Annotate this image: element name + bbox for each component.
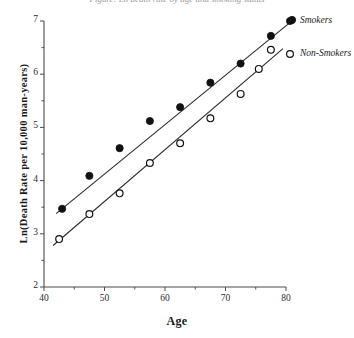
data-point-non-smokers [56,236,63,243]
x-tick-label-70: 70 [211,293,241,303]
legend-marker-smokers [286,17,293,24]
axes [44,21,286,287]
data-point-non-smokers [237,90,244,97]
data-point-non-smokers [207,115,214,122]
x-tick-label-50: 50 [90,293,120,303]
data-point-smokers [59,205,66,212]
data-points [56,16,296,242]
x-tick-label-80: 80 [271,293,301,303]
y-tick-label-2: 2 [12,280,38,290]
data-point-non-smokers [177,140,184,147]
x-tick-label-40: 40 [29,293,59,303]
data-point-smokers [116,145,123,152]
data-point-smokers [207,79,214,86]
legend-label-smokers: Smokers [300,15,332,25]
x-tick-label-60: 60 [150,293,180,303]
x-axis-title: Age [0,314,354,329]
data-point-non-smokers [267,46,274,53]
data-point-smokers [177,104,184,111]
legend-markers [286,17,293,57]
data-point-non-smokers [86,211,93,218]
data-point-smokers [267,32,274,39]
chart-figure: Figure: Ln death rate by age and smoking… [0,0,354,338]
x-axis-ticks [44,287,286,291]
data-point-smokers [237,60,244,67]
data-point-smokers [146,117,153,124]
y-tick-label-7: 7 [12,14,38,24]
legend-label-non-smokers: Non-Smokers [300,48,351,58]
y-tick-label-3: 3 [12,227,38,237]
data-point-non-smokers [146,160,153,167]
fit-line-smokers [56,18,295,213]
data-point-non-smokers [116,190,123,197]
y-tick-label-4: 4 [12,174,38,184]
data-point-smokers [86,172,93,179]
data-point-non-smokers [255,65,262,72]
legend-marker-non-smokers [287,51,294,58]
y-tick-label-6: 6 [12,67,38,77]
y-axis-ticks [40,21,44,287]
y-tick-label-5: 5 [12,120,38,130]
